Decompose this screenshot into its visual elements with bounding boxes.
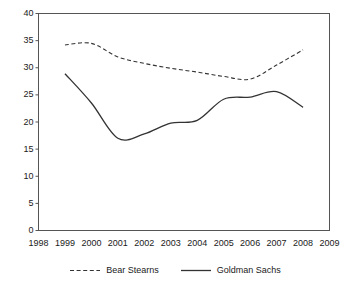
x-axis-tick-label: 2007 <box>263 239 291 248</box>
x-axis-tick-label: 2002 <box>130 239 158 248</box>
legend-label-bear-stearns: Bear Stearns <box>106 266 159 275</box>
y-axis-tick-label: 5 <box>12 199 34 208</box>
data-series-group <box>65 43 303 140</box>
chart-legend: Bear Stearns Goldman Sachs <box>0 266 351 275</box>
y-axis-tick-label: 0 <box>12 226 34 235</box>
legend-item-bear-stearns: Bear Stearns <box>70 266 159 275</box>
x-axis-tick-label: 1998 <box>25 239 53 248</box>
y-axis-tick-label: 35 <box>12 36 34 45</box>
x-axis-tick-label: 2004 <box>183 239 211 248</box>
x-axis-tick-label: 2006 <box>236 239 264 248</box>
series-line-bear-stearns <box>65 43 303 80</box>
x-axis-tick-label: 2000 <box>77 239 105 248</box>
y-axis-tick-label: 30 <box>12 63 34 72</box>
series-line-goldman-sachs <box>65 74 303 140</box>
chart-figure: 0510152025303540 19981999200020012002200… <box>0 0 351 292</box>
legend-item-goldman-sachs: Goldman Sachs <box>181 266 281 275</box>
x-axis-tick-label: 2005 <box>210 239 238 248</box>
x-axis-tick-label: 1999 <box>51 239 79 248</box>
x-axis-tick-label: 2003 <box>157 239 185 248</box>
x-axis-tick-label: 2001 <box>104 239 132 248</box>
x-axis-tick-label: 2008 <box>289 239 317 248</box>
legend-label-goldman-sachs: Goldman Sachs <box>217 266 281 275</box>
legend-swatch-dashed-icon <box>70 267 100 274</box>
y-axis-tick-label: 20 <box>12 118 34 127</box>
legend-swatch-solid-icon <box>181 267 211 274</box>
y-axis-tick-label: 15 <box>12 145 34 154</box>
y-axis-tick-label: 40 <box>12 9 34 18</box>
y-axis-tick-label: 10 <box>12 172 34 181</box>
x-axis-tick-label: 2009 <box>316 239 344 248</box>
line-chart-plot <box>0 0 351 292</box>
y-axis-tick-label: 25 <box>12 90 34 99</box>
